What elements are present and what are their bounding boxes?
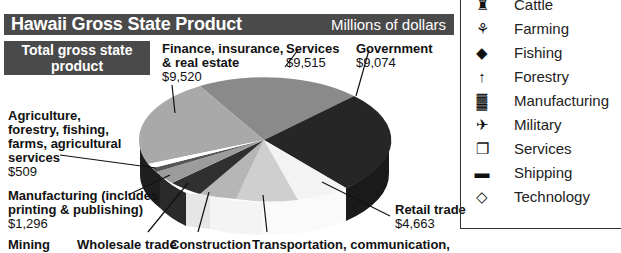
label-wholesale: Wholesale trade xyxy=(77,238,177,252)
label-services: Services $9,515 xyxy=(286,42,340,70)
forestry-icon: ↑ xyxy=(471,65,493,89)
label-government: Government $9,074 xyxy=(356,42,433,70)
manufacturing-icon: ▓ xyxy=(471,89,493,113)
legend-item-cattle: ♜ Cattle xyxy=(461,0,621,17)
label-retail: Retail trade $4,663 xyxy=(395,203,466,231)
military-icon: ✈ xyxy=(471,113,493,137)
shipping-icon: ▬ xyxy=(471,161,493,185)
technology-icon: ◇ xyxy=(471,185,493,209)
label-finance: Finance, insurance, & real estate $9,520 xyxy=(162,42,283,84)
legend-item-fishing: ◆ Fishing xyxy=(461,41,621,65)
legend-item-shipping: ▬ Shipping xyxy=(461,161,621,185)
services-icon: ❐ xyxy=(471,137,493,161)
pie-top xyxy=(139,77,391,201)
farming-icon: ⚘ xyxy=(471,17,493,41)
label-manufacturing: Manufacturing (includes printing & publi… xyxy=(8,189,158,231)
legend-item-services: ❐ Services xyxy=(461,137,621,161)
label-agriculture: Agriculture, forestry, fishing, farms, a… xyxy=(8,109,121,179)
label-construction: Construction xyxy=(170,238,251,252)
legend-item-military: ✈ Military xyxy=(461,113,621,137)
legend-item-forestry: ↑ Forestry xyxy=(461,65,621,89)
legend-item-farming: ⚘ Farming xyxy=(461,17,621,41)
label-transportation: Transportation, communication, xyxy=(252,238,450,252)
legend: ♜ Cattle ⚘ Farming ◆ Fishing ↑ Forestry … xyxy=(460,0,621,229)
fishing-icon: ◆ xyxy=(471,41,493,65)
label-mining: Mining xyxy=(8,238,50,252)
legend-item-technology: ◇ Technology xyxy=(461,185,621,209)
cattle-icon: ♜ xyxy=(471,0,493,17)
legend-item-manufacturing: ▓ Manufacturing xyxy=(461,89,621,113)
